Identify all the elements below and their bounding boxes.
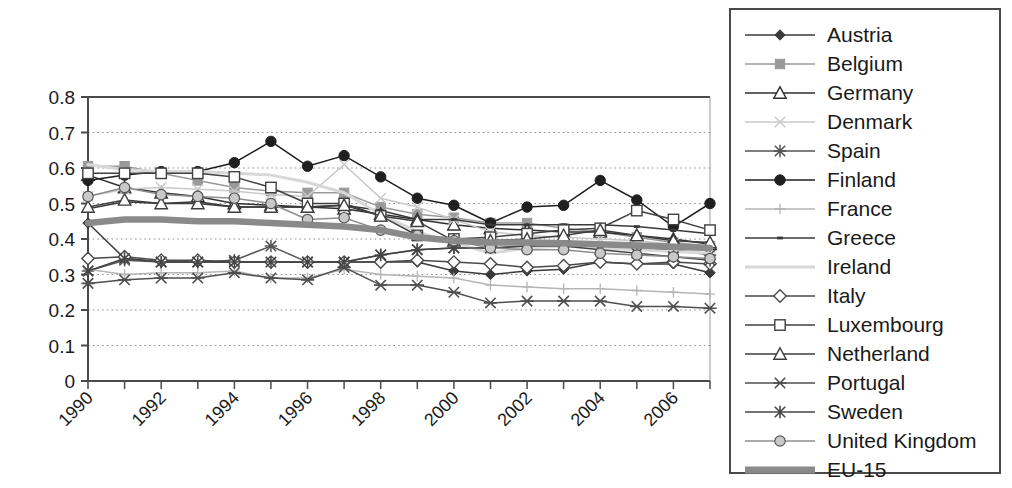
marker-square-open bbox=[193, 168, 203, 178]
x-axis-tick-label: 2004 bbox=[567, 388, 609, 430]
legend-item-label: Luxembourg bbox=[827, 314, 944, 335]
marker-star bbox=[774, 144, 786, 156]
marker-diamond-filled bbox=[775, 29, 785, 39]
marker-square-filled bbox=[775, 59, 784, 68]
marker-diamond-open bbox=[448, 256, 460, 268]
legend-item-austria[interactable]: Austria bbox=[731, 20, 999, 49]
x-axis-tick-label: 2002 bbox=[493, 388, 535, 430]
legend-swatch-icon bbox=[741, 170, 819, 190]
x-axis-tick-label: 1992 bbox=[128, 388, 170, 430]
marker-dash bbox=[524, 223, 530, 226]
marker-x-thick bbox=[374, 280, 387, 290]
legend-item-luxembourg[interactable]: Luxembourg bbox=[731, 310, 999, 339]
legend-item-sweden[interactable]: Sweden bbox=[731, 397, 999, 426]
x-axis-tick-label: 1998 bbox=[347, 388, 389, 430]
legend-item-germany[interactable]: Germany bbox=[731, 78, 999, 107]
marker-dash bbox=[777, 236, 783, 239]
legend-item-label: United Kingdom bbox=[827, 430, 976, 451]
marker-x-thick bbox=[630, 301, 643, 311]
legend-swatch-icon bbox=[741, 141, 819, 161]
x-axis-tick-label: 2006 bbox=[640, 388, 682, 430]
x-axis-tick-label: 1990 bbox=[54, 388, 96, 430]
marker-star bbox=[265, 240, 277, 252]
line-chart-svg: 00.10.20.30.40.50.60.70.8199019921994199… bbox=[0, 0, 722, 488]
marker-circle-filled bbox=[302, 161, 312, 171]
marker-diamond-open bbox=[82, 252, 94, 264]
x-axis-tick-label: 2000 bbox=[420, 388, 462, 430]
legend-item-greece[interactable]: Greece bbox=[731, 223, 999, 252]
legend-item-denmark[interactable]: Denmark bbox=[731, 107, 999, 136]
marker-plus bbox=[376, 269, 386, 279]
y-axis-tick-label: 0.2 bbox=[49, 300, 75, 321]
marker-plus bbox=[632, 285, 642, 295]
legend-item-italy[interactable]: Italy bbox=[731, 281, 999, 310]
marker-circle-open bbox=[193, 191, 203, 201]
legend-swatch-icon bbox=[741, 315, 819, 335]
marker-plus bbox=[595, 284, 605, 294]
legend-item-eu-15[interactable]: EU-15 bbox=[731, 455, 999, 484]
legend-item-united-kingdom[interactable]: United Kingdom bbox=[731, 426, 999, 455]
y-axis-tick-label: 0.1 bbox=[49, 336, 75, 357]
legend-item-label: Germany bbox=[827, 82, 913, 103]
marker-plus bbox=[412, 271, 422, 281]
marker-square-open bbox=[632, 205, 642, 215]
legend-swatch-icon bbox=[741, 373, 819, 393]
legend-item-spain[interactable]: Spain bbox=[731, 136, 999, 165]
marker-plus bbox=[485, 280, 495, 290]
legend-item-list: AustriaBelgiumGermanyDenmarkSpainFinland… bbox=[731, 20, 999, 484]
legend-item-label: Austria bbox=[827, 24, 892, 45]
legend-item-label: Finland bbox=[827, 169, 896, 190]
marker-plus bbox=[705, 289, 715, 299]
marker-circle-filled bbox=[632, 195, 642, 205]
marker-circle-filled bbox=[449, 200, 459, 210]
marker-circle-filled bbox=[705, 198, 715, 208]
chart-legend: AustriaBelgiumGermanyDenmarkSpainFinland… bbox=[729, 8, 1001, 474]
marker-square-open bbox=[266, 182, 276, 192]
legend-swatch-icon bbox=[741, 25, 819, 45]
legend-swatch-icon bbox=[741, 257, 819, 277]
marker-circle-open bbox=[266, 198, 276, 208]
marker-plus bbox=[775, 203, 785, 213]
legend-item-portugal[interactable]: Portugal bbox=[731, 368, 999, 397]
marker-x-thick bbox=[411, 280, 424, 290]
marker-plus bbox=[668, 287, 678, 297]
marker-x-thick bbox=[557, 296, 570, 306]
marker-diamond-open bbox=[411, 254, 423, 266]
legend-swatch-icon bbox=[741, 431, 819, 451]
y-axis-tick-label: 0.5 bbox=[49, 194, 75, 215]
x-axis-tick-label: 1994 bbox=[201, 388, 243, 430]
legend-swatch-icon bbox=[741, 83, 819, 103]
marker-dash bbox=[487, 223, 493, 226]
series-germany bbox=[82, 169, 716, 250]
marker-circle-filled bbox=[376, 172, 386, 182]
series-line bbox=[88, 173, 710, 239]
marker-circle-open bbox=[775, 435, 785, 445]
y-axis-tick-label: 0.3 bbox=[49, 265, 75, 286]
marker-x-thin bbox=[376, 193, 386, 203]
legend-item-label: Sweden bbox=[827, 401, 903, 422]
marker-plus bbox=[119, 269, 129, 279]
y-axis-tick-label: 0.7 bbox=[49, 123, 75, 144]
marker-plus bbox=[558, 284, 568, 294]
marker-circle-filled bbox=[412, 193, 422, 203]
legend-item-label: Italy bbox=[827, 285, 866, 306]
legend-item-finland[interactable]: Finland bbox=[731, 165, 999, 194]
marker-circle-open bbox=[595, 248, 605, 258]
legend-swatch-icon bbox=[741, 460, 819, 480]
marker-circle-filled bbox=[339, 150, 349, 160]
y-axis-tick-label: 0.4 bbox=[49, 229, 76, 250]
marker-circle-filled bbox=[229, 157, 239, 167]
legend-item-netherland[interactable]: Netherland bbox=[731, 339, 999, 368]
marker-plus bbox=[522, 282, 532, 292]
marker-x-thick bbox=[594, 296, 607, 306]
legend-item-ireland[interactable]: Ireland bbox=[731, 252, 999, 281]
marker-circle-filled bbox=[595, 175, 605, 185]
marker-circle-filled bbox=[558, 200, 568, 210]
legend-item-france[interactable]: France bbox=[731, 194, 999, 223]
x-axis-tick-label: 1996 bbox=[274, 388, 316, 430]
marker-square-open bbox=[229, 172, 239, 182]
legend-swatch-icon bbox=[741, 344, 819, 364]
legend-item-label: EU-15 bbox=[827, 459, 887, 480]
legend-item-belgium[interactable]: Belgium bbox=[731, 49, 999, 78]
marker-square-open bbox=[705, 225, 715, 235]
